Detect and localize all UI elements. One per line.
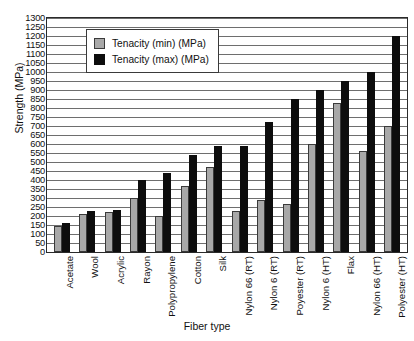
bar-group xyxy=(49,18,74,252)
x-tick-cell: Nylon 66 (RT) xyxy=(227,254,253,314)
x-tick-cell: Silk xyxy=(201,254,227,314)
bar-group xyxy=(252,18,277,252)
bar-max xyxy=(62,223,70,252)
bar-max xyxy=(113,210,121,252)
x-tick-cell: Acrylic xyxy=(99,254,125,314)
bar-min xyxy=(105,212,113,253)
x-axis-title: Fiber type xyxy=(0,320,414,332)
bar-max xyxy=(163,173,171,252)
bar-max xyxy=(214,146,222,252)
bar-max xyxy=(265,122,273,252)
legend-label-min: Tenacity (min) (MPa) xyxy=(112,38,206,49)
bar-min xyxy=(155,216,163,252)
bar-max xyxy=(392,36,400,252)
bar-max xyxy=(341,81,349,252)
bar-max xyxy=(240,146,248,252)
bar-min xyxy=(181,186,189,252)
bar-group xyxy=(278,18,303,252)
bar-group xyxy=(379,18,404,252)
legend-label-max: Tenacity (max) (MPa) xyxy=(112,54,209,65)
bar-min xyxy=(308,144,316,252)
y-tick-label: 0 xyxy=(17,248,45,257)
bar-min xyxy=(384,126,392,252)
bar-max xyxy=(189,155,197,252)
bar-group xyxy=(303,18,328,252)
legend-swatch-max-icon xyxy=(94,54,105,65)
x-tick-cell: Rayon xyxy=(125,254,151,314)
bar-min xyxy=(130,198,138,252)
x-axis-tick-labels: AcetateWoolAcrylicRayonPolypropyleneCott… xyxy=(46,254,408,314)
bar-min xyxy=(359,151,367,252)
bar-group xyxy=(354,18,379,252)
y-axis-tick-labels: 1300125012001150110010501000950900850800… xyxy=(17,11,45,259)
x-tick-cell: Flax xyxy=(329,254,355,314)
legend-item-min: Tenacity (min) (MPa) xyxy=(94,35,209,51)
bar-max xyxy=(367,72,375,252)
x-tick-cell: Cotton xyxy=(176,254,202,314)
x-tick-cell: Nylon 6 (HT) xyxy=(304,254,330,314)
bar-min xyxy=(333,103,341,252)
legend-swatch-min-icon xyxy=(94,38,105,49)
bar-chart: Strength (MPa) 1300125012001150110010501… xyxy=(0,0,414,341)
legend-item-max: Tenacity (max) (MPa) xyxy=(94,51,209,67)
bar-max xyxy=(316,90,324,252)
bar-group xyxy=(329,18,354,252)
bar-max xyxy=(87,211,95,252)
bar-max xyxy=(138,180,146,252)
x-tick-label: Polyester (HT) xyxy=(397,256,407,318)
bar-min xyxy=(79,214,87,252)
x-tick-cell: Nylon 6 (RT) xyxy=(253,254,279,314)
x-tick-cell: Wool xyxy=(74,254,100,314)
x-tick-cell: Polypropylene xyxy=(150,254,176,314)
x-tick-cell: Poyester (RT) xyxy=(278,254,304,314)
bar-min xyxy=(54,226,62,252)
bar-min xyxy=(232,211,240,252)
bar-max xyxy=(291,99,299,252)
legend: Tenacity (min) (MPa) Tenacity (max) (MPa… xyxy=(86,29,219,73)
x-tick-cell: Polyester (HT) xyxy=(381,254,407,314)
x-tick-cell: Nylon 66 (HT) xyxy=(355,254,381,314)
bar-group xyxy=(227,18,252,252)
bar-min xyxy=(206,167,214,253)
x-tick-cell: Acetate xyxy=(48,254,74,314)
bar-min xyxy=(283,204,291,252)
bar-min xyxy=(257,200,265,252)
